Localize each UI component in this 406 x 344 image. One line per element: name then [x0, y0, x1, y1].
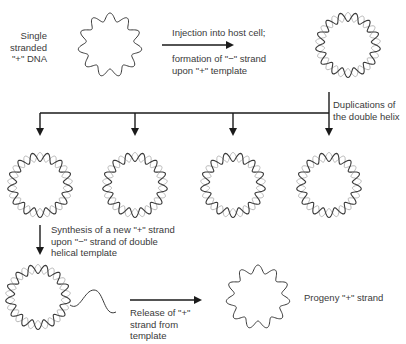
label-duplications: Duplications of the double helix [333, 99, 400, 122]
label-single-stranded: Single stranded "+" DNA [10, 30, 47, 65]
label-formation: formation of "−" strand upon "+" templat… [172, 53, 266, 76]
released-strand-tail [70, 290, 116, 313]
ss-plus-dna-strand [78, 13, 141, 76]
label-synthesis: Synthesis of a new "+" strand upon "−" s… [51, 224, 175, 259]
label-release: Release of "+" strand from template [130, 307, 190, 342]
progeny-plus-strand-strand [226, 265, 289, 328]
label-progeny: Progeny "+" strand [304, 292, 383, 304]
label-injection: Injection into host cell; [172, 27, 265, 39]
